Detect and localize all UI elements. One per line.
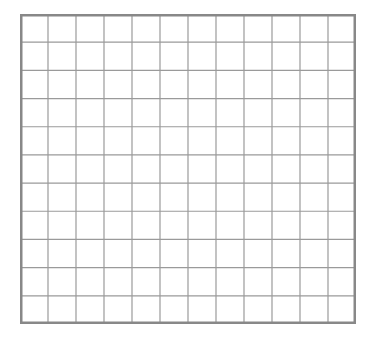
blank-grid	[20, 14, 356, 324]
grid-lines	[20, 14, 356, 324]
